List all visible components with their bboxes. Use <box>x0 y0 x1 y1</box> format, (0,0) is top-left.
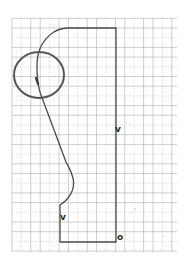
left-side-label: v <box>60 213 66 222</box>
origin-label: o <box>117 233 123 242</box>
stray-mark <box>162 235 164 237</box>
grid-paper <box>12 18 177 252</box>
right-side-label: v <box>115 125 121 134</box>
diagram-canvas: v v o <box>0 0 187 271</box>
grid-sketch-svg <box>0 0 187 271</box>
stray-mark <box>134 208 136 210</box>
